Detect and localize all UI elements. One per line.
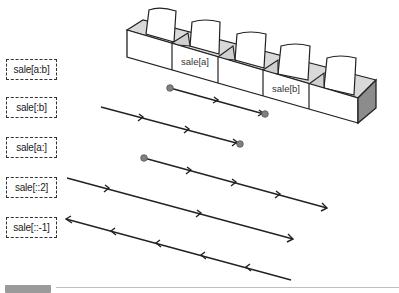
card-icon-3 bbox=[278, 44, 310, 80]
start-dot-icon bbox=[167, 85, 174, 92]
start-dot-icon bbox=[141, 155, 148, 162]
cell-label-b: sale[b] bbox=[272, 83, 300, 94]
footer-tab bbox=[5, 285, 51, 293]
footer-divider bbox=[56, 287, 399, 288]
list-box-train: sale[a] sale[b] bbox=[127, 8, 376, 123]
arrow-slice-to-b bbox=[101, 107, 243, 147]
arrow-slice-reverse bbox=[66, 216, 291, 280]
arrow-slice-step-2 bbox=[67, 178, 293, 242]
arrow-slice-from-a bbox=[141, 155, 327, 211]
end-dot-icon bbox=[262, 111, 269, 118]
cell-label-a: sale[a] bbox=[181, 56, 209, 67]
end-dot-icon bbox=[237, 141, 244, 148]
